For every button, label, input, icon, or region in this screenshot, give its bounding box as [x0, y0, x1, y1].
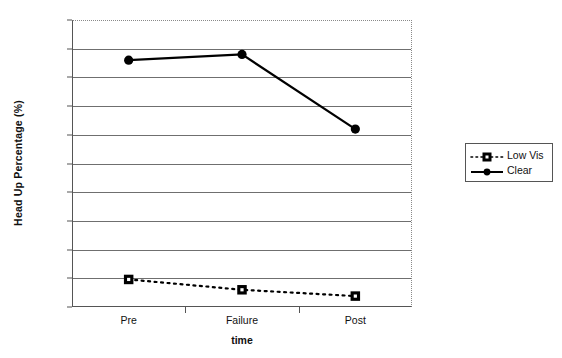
- legend-swatch-clear-icon: [470, 164, 504, 176]
- gridline: [73, 49, 411, 50]
- y-tick-mark: [67, 20, 72, 21]
- x-tick-label: Pre: [120, 314, 136, 326]
- y-tick-mark: [67, 307, 72, 308]
- gridline: [73, 221, 411, 222]
- gridline: [73, 106, 411, 107]
- legend-item-clear: Clear: [470, 162, 548, 177]
- gridline: [73, 250, 411, 251]
- legend-label-low-vis: Low Vis: [507, 149, 544, 161]
- x-tick-label: Post: [345, 314, 366, 326]
- gridline: [73, 135, 411, 136]
- gridline: [73, 192, 411, 193]
- line-chart: Head Up Percentage (%) 05101520253035404…: [0, 0, 562, 358]
- x-tick-mark: [185, 307, 186, 313]
- plot-area: [72, 20, 412, 307]
- y-tick-mark: [67, 192, 72, 193]
- legend-swatch-low-vis-icon: [470, 149, 504, 161]
- y-tick-mark: [67, 163, 72, 164]
- gridline: [73, 77, 411, 78]
- gridline: [73, 164, 411, 165]
- x-axis-title: time: [231, 334, 253, 346]
- y-axis-title: Head Up Percentage (%): [12, 100, 24, 226]
- x-tick-mark: [299, 307, 300, 313]
- legend-label-clear: Clear: [507, 164, 532, 176]
- gridline: [73, 278, 411, 279]
- y-tick-mark: [67, 249, 72, 250]
- y-tick-mark: [67, 77, 72, 78]
- y-tick-mark: [67, 48, 72, 49]
- y-tick-mark: [67, 106, 72, 107]
- y-tick-mark: [67, 220, 72, 221]
- legend-item-low-vis: Low Vis: [470, 147, 548, 162]
- y-tick-mark: [67, 134, 72, 135]
- y-tick-mark: [67, 278, 72, 279]
- x-tick-label: Failure: [226, 314, 258, 326]
- chart-legend: Low Vis Clear: [465, 143, 553, 182]
